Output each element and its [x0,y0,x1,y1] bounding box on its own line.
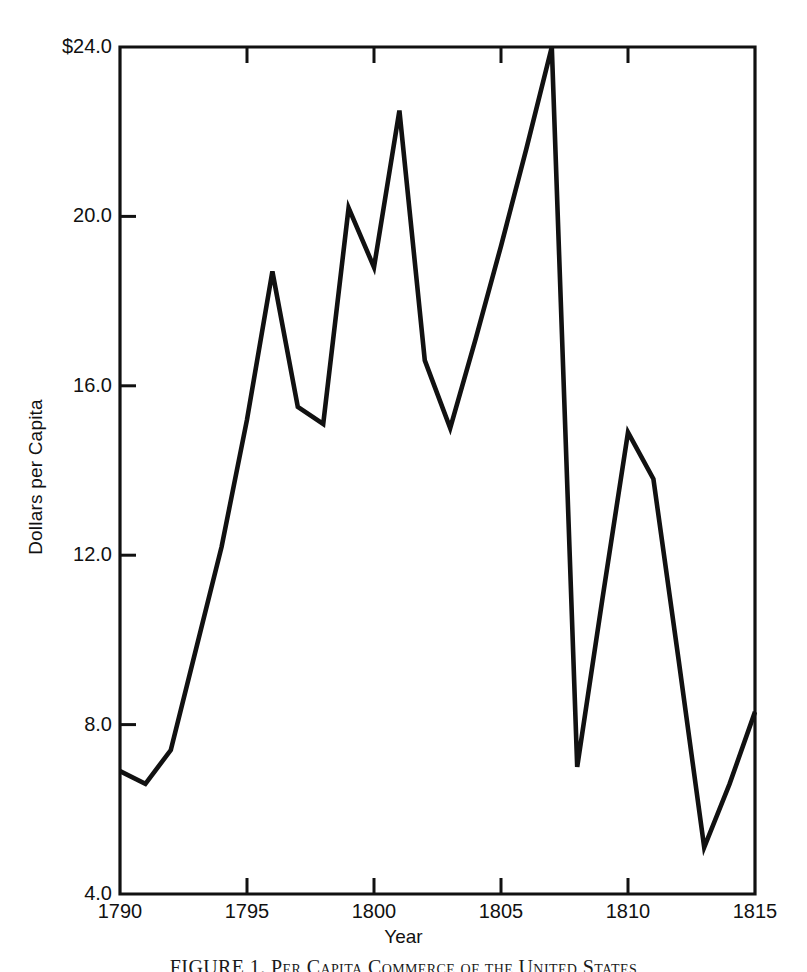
x-tick-label: 1805 [451,900,551,922]
x-tick-label: 1810 [578,900,678,922]
y-tick-label: 12.0 [12,544,112,564]
axis-ticks [120,47,628,894]
x-tick-label: 1790 [70,900,170,922]
figure-container: Dollars per Capita 4.08.012.016.020.0$24… [0,0,807,972]
x-axis-title: Year [0,926,807,948]
line-chart-plot [0,0,807,972]
y-tick-label: 8.0 [12,714,112,734]
plot-frame [120,47,755,894]
data-series-group [120,47,755,847]
x-tick-label: 1800 [324,900,424,922]
y-tick-label: $24.0 [12,36,112,56]
y-axis-tick-labels: 4.08.012.016.020.0$24.0 [0,0,112,972]
x-tick-label: 1795 [197,900,297,922]
data-series-line-0 [120,47,755,847]
y-tick-label: 16.0 [12,375,112,395]
x-tick-label: 1815 [705,900,805,922]
figure-caption: FIGURE 1. Per Capita Commerce of the Uni… [0,955,807,972]
y-tick-label: 20.0 [12,205,112,225]
